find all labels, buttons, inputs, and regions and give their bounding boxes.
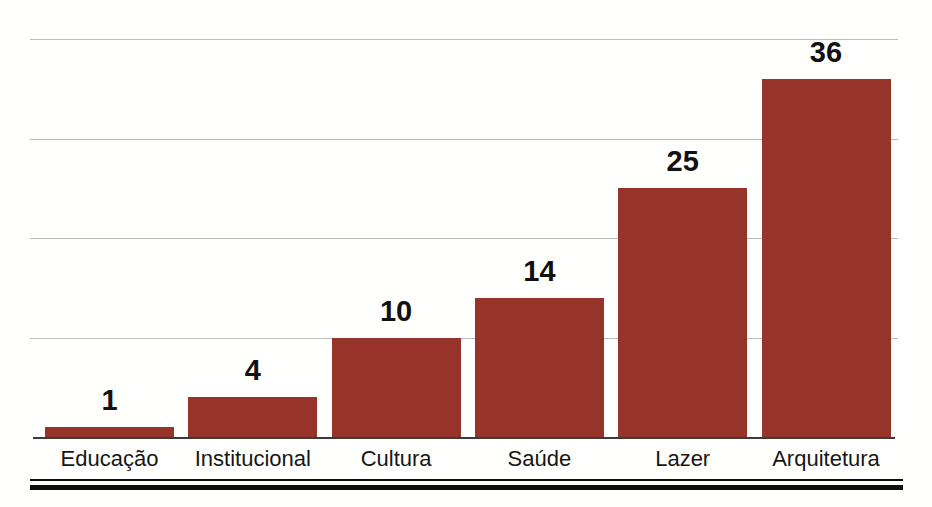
bar-lazer [618, 188, 747, 437]
bar-arquitetura [762, 79, 891, 437]
value-label-educação: 1 [45, 386, 174, 415]
value-label-arquitetura: 36 [762, 38, 891, 67]
bar-cultura [332, 338, 461, 438]
value-label-cultura: 10 [332, 297, 461, 326]
bar-saúde [475, 298, 604, 437]
bar-chart-figure: 1Educação4Institucional10Cultura14Saúde2… [0, 0, 932, 507]
value-label-lazer: 25 [618, 147, 747, 176]
value-label-institucional: 4 [188, 356, 317, 385]
bottom-rule-thick [30, 485, 903, 490]
category-label-arquitetura: Arquitetura [742, 448, 911, 470]
plot-area: 1Educação4Institucional10Cultura14Saúde2… [0, 0, 932, 507]
bottom-rule-thin [30, 479, 903, 481]
value-label-saúde: 14 [475, 257, 604, 286]
bar-institucional [188, 397, 317, 437]
bar-educação [45, 427, 174, 437]
x-axis-baseline [33, 437, 895, 439]
